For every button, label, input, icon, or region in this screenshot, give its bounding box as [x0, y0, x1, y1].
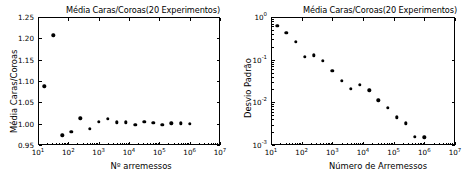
x-minor-tick: [117, 143, 118, 145]
y-tick-label: 100: [233, 13, 267, 22]
y-tick-mark: [39, 102, 42, 103]
x-minor-tick: [381, 143, 382, 145]
plot-area-right: [271, 17, 455, 145]
x-tick-mark-top: [38, 18, 39, 21]
x-minor-tick: [439, 143, 440, 145]
x-minor-tick: [59, 143, 60, 145]
x-minor-tick: [143, 143, 144, 145]
y-tick-mark: [272, 145, 275, 146]
y-minor-tick: [272, 77, 274, 78]
x-minor-tick: [443, 143, 444, 145]
y-tick-label: 1.00: [0, 119, 34, 128]
y-minor-tick: [272, 119, 274, 120]
y-tick-label: 1.10: [0, 77, 34, 86]
y-tick-mark: [39, 145, 42, 146]
x-tick-mark: [332, 142, 333, 145]
x-minor-tick: [199, 143, 200, 145]
x-axis-label-right: Número de Arremessos: [233, 161, 467, 171]
y-minor-tick: [272, 26, 274, 27]
x-minor-tick: [83, 143, 84, 145]
x-tick-label: 104: [357, 148, 370, 157]
x-tick-mark-top: [394, 18, 395, 21]
y-tick-mark: [272, 60, 275, 61]
y-tick-mark: [39, 81, 42, 82]
x-minor-tick: [412, 143, 413, 145]
x-tick-mark: [220, 142, 221, 145]
x-minor-tick: [387, 143, 388, 145]
y-minor-tick: [272, 82, 274, 83]
x-tick-mark-top: [424, 18, 425, 21]
y-minor-tick: [272, 47, 274, 48]
x-minor-tick: [448, 143, 449, 145]
x-minor-tick: [300, 143, 301, 145]
x-minor-tick: [326, 143, 327, 145]
y-minor-tick: [272, 19, 274, 20]
y-minor-tick: [272, 73, 274, 74]
x-tick-mark: [424, 142, 425, 145]
y-tick-mark-right: [217, 60, 220, 61]
x-minor-tick: [181, 143, 182, 145]
x-minor-tick: [311, 143, 312, 145]
y-tick-mark-right: [452, 145, 455, 146]
x-tick-label: 102: [295, 148, 308, 157]
x-minor-tick: [292, 143, 293, 145]
y-minor-tick: [272, 109, 274, 110]
x-minor-tick: [362, 143, 363, 145]
x-tick-mark: [159, 142, 160, 145]
x-minor-tick: [168, 143, 169, 145]
y-axis-label-right: Desvio Padrão: [243, 58, 253, 118]
x-tick-label: 105: [387, 148, 400, 157]
x-tick-label: 106: [183, 148, 196, 157]
x-minor-tick: [347, 143, 348, 145]
x-minor-tick: [150, 143, 151, 145]
y-minor-tick: [272, 132, 274, 133]
y-tick-label: 1.20: [0, 34, 34, 43]
x-minor-tick: [113, 143, 114, 145]
y-tick-mark: [39, 124, 42, 125]
x-minor-tick: [423, 143, 424, 145]
x-minor-tick: [90, 143, 91, 145]
x-tick-mark: [99, 142, 100, 145]
figure-canvas: Média Caras/Coroas(20 Experimentos) Médi…: [0, 0, 467, 175]
plot-area-left: [38, 17, 220, 145]
y-tick-mark: [272, 102, 275, 103]
y-minor-tick: [272, 34, 274, 35]
x-axis-label-left: Nº arremessos: [0, 161, 258, 171]
y-tick-mark-right: [217, 38, 220, 39]
y-tick-mark: [39, 38, 42, 39]
x-tick-mark-top: [190, 18, 191, 21]
x-minor-tick: [122, 143, 123, 145]
x-tick-label: 107: [214, 148, 227, 157]
x-minor-tick: [342, 143, 343, 145]
y-tick-mark: [272, 17, 275, 18]
x-minor-tick: [213, 143, 214, 145]
y-tick-mark-right: [217, 102, 220, 103]
y-tick-mark-right: [217, 145, 220, 146]
x-minor-tick: [408, 143, 409, 145]
x-minor-tick: [316, 143, 317, 145]
x-minor-tick: [120, 143, 121, 145]
x-minor-tick: [183, 143, 184, 145]
x-minor-tick: [204, 143, 205, 145]
y-tick-label: 1.05: [0, 98, 34, 107]
x-tick-mark-top: [332, 18, 333, 21]
x-tick-mark-top: [363, 18, 364, 21]
y-minor-tick: [272, 112, 274, 113]
x-tick-label: 103: [326, 148, 339, 157]
x-tick-mark: [455, 142, 456, 145]
y-tick-mark-right: [452, 17, 455, 18]
y-tick-label: 10-1: [233, 55, 267, 64]
x-minor-tick: [52, 143, 53, 145]
x-tick-label: 102: [62, 148, 75, 157]
x-tick-mark-top: [220, 18, 221, 21]
x-minor-tick: [384, 143, 385, 145]
y-tick-mark: [39, 60, 42, 61]
x-minor-tick: [403, 143, 404, 145]
x-minor-tick: [351, 143, 352, 145]
y-minor-tick: [272, 125, 274, 126]
x-minor-tick: [280, 143, 281, 145]
x-minor-tick: [108, 143, 109, 145]
x-minor-tick: [153, 143, 154, 145]
x-minor-tick: [289, 143, 290, 145]
x-tick-label: 106: [418, 148, 431, 157]
